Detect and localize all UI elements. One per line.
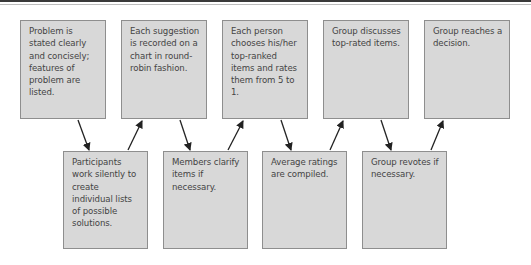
arrow-7-8	[381, 120, 391, 150]
arrow-1-2	[78, 120, 89, 150]
arrow-8-9	[431, 121, 443, 150]
arrow-4-5	[228, 121, 243, 150]
arrow-5-6	[281, 120, 291, 150]
arrow-6-7	[330, 121, 343, 150]
arrow-2-3	[128, 121, 142, 150]
arrow-3-4	[180, 120, 190, 150]
flow-arrows	[0, 0, 531, 265]
